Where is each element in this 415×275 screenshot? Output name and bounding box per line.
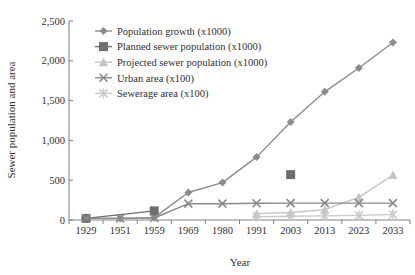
x-tick-label: 1929 <box>76 225 97 236</box>
line-chart: Sewer population and area Year 05001,000… <box>0 0 415 275</box>
y-tick-label: 2,500 <box>41 16 65 27</box>
legend-label: Planned sewer population (x1000) <box>117 41 262 53</box>
x-tick-label: 1991 <box>246 225 267 236</box>
x-tick-label: 2013 <box>314 225 335 236</box>
y-tick-label: 1,500 <box>41 95 65 106</box>
legend-label: Sewerage area (x100) <box>117 88 209 100</box>
legend-item-3[interactable]: Projected sewer population (x1000) <box>95 57 268 69</box>
y-tick-label: 0 <box>60 215 65 226</box>
y-tick-label: 500 <box>49 175 65 186</box>
y-axis-title: Sewer population and area <box>5 61 17 178</box>
x-axis-tick-labels: 1929195119591969198019912003201320232033 <box>76 225 404 236</box>
legend-label: Projected sewer population (x1000) <box>117 57 268 69</box>
data-point-square <box>99 42 108 51</box>
data-point-diamond <box>100 27 108 35</box>
x-tick-label: 1969 <box>178 225 199 236</box>
legend-item-2[interactable]: Planned sewer population (x1000) <box>95 41 262 53</box>
legend-item-5[interactable]: Sewerage area (x100) <box>95 88 209 100</box>
y-tick-label: 2,000 <box>41 55 65 66</box>
chart-legend: Population growth (x1000)Planned sewer p… <box>95 26 268 100</box>
x-axis-title: Year <box>230 256 251 268</box>
legend-item-4[interactable]: Urban area (x100) <box>95 73 194 85</box>
x-tick-label: 2023 <box>348 225 369 236</box>
legend-label: Population growth (x1000) <box>117 26 231 38</box>
x-tick-label: 1951 <box>110 225 131 236</box>
y-axis-tick-labels: 05001,0001,5002,0002,500 <box>41 16 65 226</box>
series-4 <box>82 199 397 222</box>
legend-item-1[interactable]: Population growth (x1000) <box>95 26 231 38</box>
x-tick-label: 2033 <box>382 225 403 236</box>
legend-label: Urban area (x100) <box>117 73 194 85</box>
data-point-triangle <box>388 171 397 180</box>
x-tick-label: 1980 <box>212 225 233 236</box>
x-tick-label: 2003 <box>280 225 301 236</box>
y-tick-label: 1,000 <box>41 135 65 146</box>
series-3 <box>252 171 397 218</box>
x-tick-label: 1959 <box>144 225 165 236</box>
series-line <box>86 42 393 218</box>
chart-container: Sewer population and area Year 05001,000… <box>0 0 415 275</box>
data-point-square <box>286 170 295 179</box>
